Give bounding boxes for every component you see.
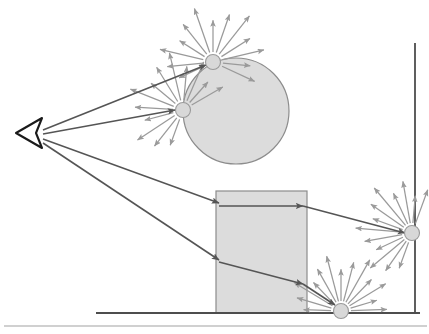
scatter-ray xyxy=(374,188,405,225)
viewer-eye-group xyxy=(16,118,42,148)
primary-ray xyxy=(43,139,219,203)
scatter-node xyxy=(206,55,221,70)
primary-ray xyxy=(43,143,219,260)
scatter-node xyxy=(405,226,420,241)
scatter-ray xyxy=(351,300,377,308)
scatter-ray xyxy=(399,242,408,268)
scene-canvas xyxy=(0,0,429,334)
scatter-ray xyxy=(344,262,354,301)
scatter-ray xyxy=(351,309,387,310)
scatter-ray xyxy=(180,41,205,57)
scatter-ray xyxy=(135,107,173,109)
scatter-ray xyxy=(194,9,209,53)
scatter-ray xyxy=(370,239,404,268)
scatter-ray xyxy=(327,256,339,301)
scatter-node xyxy=(334,304,349,319)
scatter-node xyxy=(176,103,191,118)
secondary-ray-segment xyxy=(303,206,405,233)
secondary-ray-segment xyxy=(303,284,335,305)
scatter-ray xyxy=(130,89,173,106)
box-shape xyxy=(216,191,307,313)
scatter-ray xyxy=(216,15,229,53)
ray-tracing-figure xyxy=(0,0,429,334)
scatter-ray xyxy=(415,190,427,224)
primary-ray xyxy=(43,65,206,130)
scatter-ray xyxy=(183,24,207,54)
scatter-ray xyxy=(304,310,331,311)
viewer-eye-icon xyxy=(16,118,42,148)
scatter-ray xyxy=(317,269,336,302)
scatter-ray xyxy=(170,119,179,145)
